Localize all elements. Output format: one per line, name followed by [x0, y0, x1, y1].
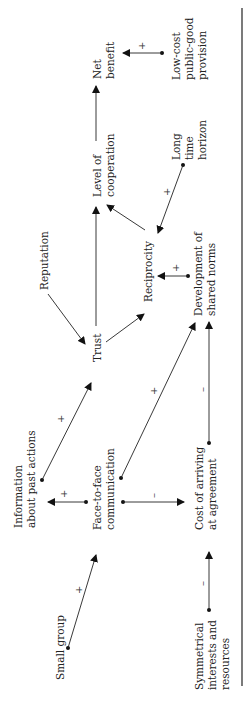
- diagram-canvas: Small group Symmetrical interests and re…: [0, 0, 250, 711]
- svg-text:communication: communication: [104, 448, 116, 530]
- svg-text:interests and: interests and: [206, 620, 218, 690]
- svg-text:–: –: [197, 581, 208, 586]
- svg-text:+: +: [136, 42, 147, 50]
- edge-face-to-cost: –: [121, 493, 184, 504]
- svg-text:–: –: [197, 387, 208, 392]
- svg-text:resources: resources: [219, 638, 231, 690]
- edge-face-to-norms: +: [119, 323, 195, 480]
- svg-text:Trust: Trust: [91, 333, 103, 362]
- svg-text:Net: Net: [91, 59, 103, 79]
- svg-text:Reputation: Reputation: [38, 231, 50, 290]
- svg-text:public-good: public-good: [183, 17, 195, 80]
- svg-text:at agreement: at agreement: [206, 458, 218, 530]
- svg-text:provision: provision: [196, 31, 208, 80]
- edge-norms-to-reciprocity: +: [158, 264, 190, 278]
- svg-text:benefit: benefit: [104, 41, 116, 79]
- node-shared-norms: Development of shared norms: [192, 231, 217, 316]
- edge-cost-to-norms: –: [197, 322, 211, 445]
- svg-text:+: +: [58, 490, 69, 498]
- edge-reputation-to-trust: [48, 294, 85, 344]
- svg-text:Cost of arriving: Cost of arriving: [193, 446, 205, 530]
- node-level-cooperation: Level of cooperation: [91, 133, 116, 197]
- svg-text:Reciprocity: Reciprocity: [142, 241, 154, 302]
- edge-lowcost-to-net-benefit: +: [123, 42, 164, 55]
- edge-small-group-to-face: +: [66, 555, 96, 650]
- node-reputation: Reputation: [38, 231, 50, 290]
- node-reciprocity: Reciprocity: [142, 241, 154, 302]
- edge-symmetrical-to-cost: –: [197, 552, 211, 612]
- svg-text:horizon: horizon: [196, 120, 208, 160]
- edge-reciprocity-to-cooperation: [107, 205, 145, 230]
- edge-information-to-trust: +: [40, 383, 91, 482]
- node-long-time-horizon: Long time horizon: [170, 120, 208, 160]
- causal-diagram: Small group Symmetrical interests and re…: [0, 0, 250, 711]
- svg-text:time: time: [183, 136, 195, 160]
- svg-text:–: –: [148, 493, 159, 498]
- edge-trust-to-reciprocity: [106, 314, 144, 342]
- edge-face-to-information: +: [48, 490, 88, 504]
- svg-text:Small group: Small group: [54, 615, 66, 680]
- svg-text:Level of: Level of: [91, 154, 103, 197]
- svg-text:Information: Information: [12, 465, 24, 528]
- edge-horizon-to-reciprocity: +: [158, 163, 185, 233]
- svg-text:+: +: [170, 264, 181, 272]
- node-low-cost-provision: Low-cost public-good provision: [170, 17, 208, 80]
- node-symmetrical-interests: Symmetrical interests and resources: [193, 620, 231, 690]
- svg-text:about past actions: about past actions: [25, 430, 37, 528]
- svg-text:Face-to-face: Face-to-face: [91, 465, 103, 530]
- svg-text:shared norms: shared norms: [205, 243, 217, 316]
- node-small-group: Small group: [54, 615, 66, 680]
- svg-text:Symmetrical: Symmetrical: [193, 622, 205, 690]
- node-face-to-face: Face-to-face communication: [91, 448, 116, 530]
- svg-text:cooperation: cooperation: [104, 133, 116, 197]
- svg-text:+: +: [161, 188, 172, 196]
- node-net-benefit: Net benefit: [91, 41, 116, 79]
- svg-text:+: +: [148, 387, 159, 395]
- svg-text:Low-cost: Low-cost: [170, 32, 182, 80]
- svg-text:+: +: [55, 415, 66, 423]
- svg-text:Development of: Development of: [192, 231, 204, 316]
- svg-text:+: +: [73, 586, 84, 594]
- node-trust: Trust: [91, 333, 103, 362]
- node-information-past-actions: Information about past actions: [12, 430, 37, 528]
- node-cost-agreement: Cost of arriving at agreement: [193, 446, 218, 530]
- svg-text:Long: Long: [170, 133, 182, 160]
